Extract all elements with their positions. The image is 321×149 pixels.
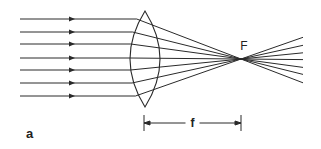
light-rays <box>20 19 303 96</box>
arrowhead-icon <box>69 42 75 47</box>
light-ray <box>20 19 303 83</box>
arrowhead-icon <box>69 56 75 61</box>
arrowhead-icon <box>69 68 75 73</box>
focus-label: F <box>240 39 247 53</box>
focal-length-label: f <box>191 116 196 130</box>
arrowhead-icon <box>69 17 75 22</box>
arrowhead-icon <box>69 81 75 86</box>
light-ray <box>20 58 303 60</box>
arrowhead-icon <box>69 94 75 99</box>
panel-label: a <box>26 126 34 141</box>
arrowhead-icon <box>235 121 241 125</box>
converging-lens-diagram: F f a <box>0 0 321 149</box>
arrowhead-icon <box>69 30 75 35</box>
arrowhead-icon <box>144 121 150 125</box>
light-ray <box>20 32 303 74</box>
